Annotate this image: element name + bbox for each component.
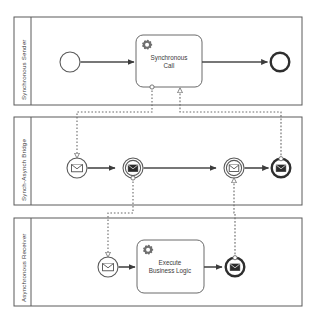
pool-asynchronous-receiver[interactable]: Asynchronous Receiver Execute Business L…: [14, 218, 302, 306]
start-event-sender[interactable]: [60, 52, 80, 72]
envelope-icon: [128, 165, 138, 171]
pool-asynchronous-receiver-label: Asynchronous Receiver: [20, 234, 27, 303]
task-execute-business-logic-label-line1: Execute: [159, 259, 182, 266]
message-start-event-receiver[interactable]: [98, 257, 118, 277]
start-event-sender-circle: [60, 52, 80, 72]
pool-synch-asynch-bridge-label: Synch-Asynch Bridge: [20, 139, 27, 201]
envelope-icon: [229, 165, 239, 171]
message-end-event-receiver[interactable]: [226, 258, 245, 277]
end-event-sender-circle: [271, 53, 290, 72]
envelope-icon: [230, 264, 240, 270]
envelope-icon: [103, 264, 114, 271]
bpmn-svg: Synchronous Sender Synchronous Call Sync…: [0, 0, 315, 326]
task-execute-business-logic[interactable]: Execute Business Logic: [137, 240, 204, 293]
pool-synch-asynch-bridge-body: [14, 117, 302, 205]
message-start-event-bridge[interactable]: [67, 158, 87, 178]
envelope-icon: [72, 165, 83, 172]
task-execute-business-logic-label-line2: Business Logic: [149, 267, 191, 275]
message-end-event-bridge[interactable]: [272, 159, 291, 178]
bpmn-diagram-canvas: Synchronous Sender Synchronous Call Sync…: [0, 0, 315, 326]
message-intermediate-catch-event-bridge[interactable]: [224, 158, 244, 178]
pool-synchronous-sender[interactable]: Synchronous Sender Synchronous Call: [14, 17, 302, 105]
pool-synchronous-sender-label: Synchronous Sender: [20, 40, 27, 101]
end-event-sender[interactable]: [271, 53, 290, 72]
pool-synch-asynch-bridge[interactable]: Synch-Asynch Bridge: [14, 117, 302, 205]
task-synchronous-call-label-line2: Call: [164, 62, 175, 69]
message-intermediate-throw-event-bridge[interactable]: [123, 158, 143, 178]
task-synchronous-call-label-line1: Synchronous: [151, 54, 188, 62]
envelope-icon: [276, 165, 286, 171]
task-synchronous-call[interactable]: Synchronous Call: [136, 35, 202, 87]
